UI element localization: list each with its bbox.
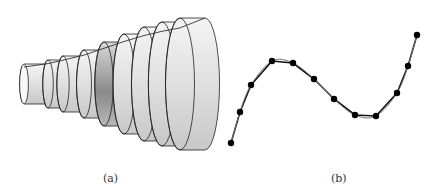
data-point <box>269 58 275 64</box>
figure-canvas <box>0 0 437 194</box>
disk <box>165 18 219 150</box>
data-point <box>228 140 234 146</box>
data-point <box>373 113 379 119</box>
data-point <box>290 60 296 66</box>
data-point <box>405 63 411 69</box>
data-point <box>414 32 420 38</box>
data-point <box>331 96 337 102</box>
data-point <box>352 112 358 118</box>
caption-b: (b) <box>331 172 347 185</box>
caption-a: (a) <box>103 172 118 185</box>
data-point <box>394 90 400 96</box>
data-point <box>237 109 243 115</box>
curve-approximation-diagram <box>228 32 420 146</box>
disk-stack-diagram <box>20 18 220 150</box>
smooth-curve <box>231 35 417 143</box>
data-point <box>248 82 254 88</box>
data-point <box>311 76 317 82</box>
